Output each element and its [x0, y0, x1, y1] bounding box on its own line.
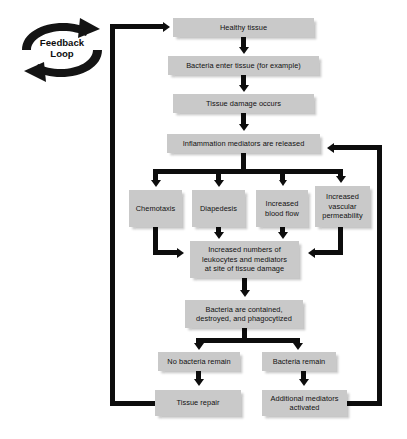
arrowhead-tissue-damage [239, 85, 249, 92]
connector-split-bar [196, 338, 300, 343]
feedback-loop-badge: Feedback Loop [16, 16, 108, 84]
arrowhead-bacteria-remain [293, 343, 303, 350]
arrowhead-no-bacteria-remain [194, 343, 204, 350]
connector-left-rail-bottom [110, 401, 158, 406]
arrowhead-increased-blood-flow [279, 180, 287, 186]
flowchart-canvas: Feedback Loop [0, 0, 407, 439]
feedback-loop-label: Feedback Loop [16, 38, 108, 59]
node-healthy-tissue[interactable]: Healthy tissue [173, 18, 314, 37]
arrowhead-additional-mediators [299, 379, 309, 386]
arrowhead-bacteria-enter [239, 47, 249, 54]
node-no-bacteria-remain[interactable]: No bacteria remain [158, 352, 240, 371]
connector-distributor-bar [154, 169, 342, 174]
connector-chemotaxis-right [153, 250, 178, 255]
arrowhead-leukocytes-from-left [177, 248, 184, 258]
connector-right-rail-top [334, 145, 382, 150]
connector-permeability-left [315, 250, 343, 255]
node-vascular-permeability[interactable]: Increased vascular permeability [315, 186, 370, 227]
arrowhead-diapedesis [214, 180, 224, 187]
node-bacteria-contained[interactable]: Bacteria are contained, destroyed, and p… [185, 300, 303, 328]
arrowhead-chemotaxis [151, 180, 161, 187]
node-tissue-repair[interactable]: Tissue repair [155, 390, 241, 416]
node-tissue-damage-occurs[interactable]: Tissue damage occurs [173, 94, 314, 113]
connector-right-rail-vertical [377, 145, 382, 406]
node-chemotaxis[interactable]: Chemotaxis [129, 190, 182, 227]
connector-left-rail-top [110, 24, 165, 29]
arrowhead-leukocytes-from-diapedesis [214, 232, 224, 239]
connector-left-rail-vertical [110, 24, 115, 406]
node-increased-leukocytes[interactable]: Increased numbers of leukocytes and medi… [190, 241, 299, 278]
node-diapedesis[interactable]: Diapedesis [192, 190, 245, 227]
node-bacteria-remain[interactable]: Bacteria remain [262, 352, 336, 371]
node-bacteria-enter-tissue[interactable]: Bacteria enter tissue (for example) [168, 56, 319, 75]
arrowhead-leukocytes-from-right [308, 248, 315, 258]
node-additional-mediators[interactable]: Additional mediators activated [262, 390, 347, 416]
arrowhead-into-healthy-tissue [163, 22, 170, 32]
arrowhead-into-mediators-released [327, 143, 334, 153]
arrowhead-tissue-repair [194, 379, 204, 386]
arrowhead-vascular-permeability [336, 176, 346, 183]
node-mediators-released[interactable]: Inflammation mediators are released [167, 134, 320, 153]
arrowhead-mediators-released [239, 124, 249, 131]
arrowhead-bacteria-contained [240, 290, 250, 297]
node-increased-blood-flow[interactable]: Increased blood flow [256, 190, 308, 227]
arrowhead-leukocytes-from-blood-flow [278, 232, 288, 239]
